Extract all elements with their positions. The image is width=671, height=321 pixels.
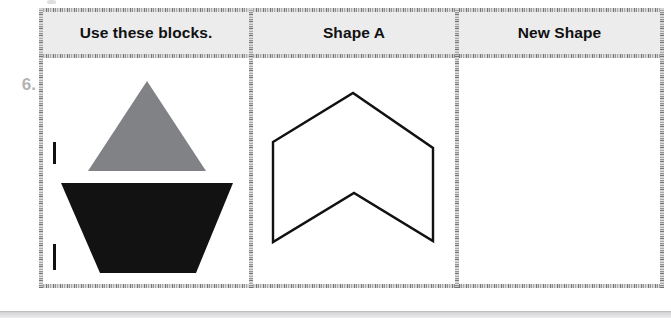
column-header-label: Shape A [323,24,385,42]
column-header-new-shape: New Shape [459,12,660,54]
shape-a-illustration [253,58,455,284]
table-border-bottom [39,284,664,288]
worksheet-table: Use these blocks. Shape A New Shape [39,8,664,288]
column-header-label: New Shape [518,24,602,42]
column-header-use-these-blocks: Use these blocks. [43,12,249,54]
gray-triangle-block [88,81,206,171]
column-header-shape-a: Shape A [253,12,455,54]
table-border-right [660,8,664,288]
worksheet-page: 6. Use these blocks. Shape A New Shape [0,0,671,321]
cell-shape-a [253,58,455,284]
unit-tick-triangle [53,142,56,164]
unit-tick-trapezoid [53,244,56,270]
shape-a-outline [273,93,433,242]
new-shape-answer-area[interactable] [459,58,660,284]
page-bottom-band [0,312,671,318]
cell-new-shape[interactable] [459,58,660,284]
black-trapezoid-block [61,183,233,273]
cell-use-these-blocks [43,58,249,284]
blocks-illustration [43,58,249,284]
scan-speck [47,0,56,4]
problem-number: 6. [8,76,36,93]
column-header-label: Use these blocks. [80,24,213,42]
